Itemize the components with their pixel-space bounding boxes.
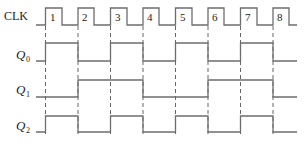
q2-waveform [36, 116, 297, 132]
timing-diagram: CLK Q 0 Q 1 Q 2 1 2 3 4 5 6 7 8 [0, 0, 306, 149]
label-q1: Q 1 [16, 82, 30, 99]
label-clk: CLK [4, 9, 28, 23]
svg-text:2: 2 [26, 126, 30, 135]
pulse-number: 2 [82, 11, 88, 23]
q0-waveform [36, 43, 297, 61]
svg-text:Q: Q [16, 47, 26, 62]
pulse-number: 6 [212, 11, 218, 23]
svg-text:1: 1 [26, 90, 30, 99]
pulse-number: 4 [147, 11, 153, 23]
label-q2: Q 2 [16, 118, 30, 135]
svg-text:0: 0 [26, 55, 30, 64]
clock-pulse-numbers: 1 2 3 4 5 6 7 8 [50, 11, 283, 23]
pulse-number: 3 [115, 11, 121, 23]
svg-text:Q: Q [16, 118, 26, 133]
label-q0: Q 0 [16, 47, 30, 64]
pulse-number: 8 [277, 11, 283, 23]
clk-waveform [36, 8, 297, 25]
q1-waveform [36, 80, 297, 97]
pulse-number: 1 [50, 11, 56, 23]
pulse-number: 7 [245, 11, 251, 23]
pulse-number: 5 [180, 11, 186, 23]
svg-text:Q: Q [16, 82, 26, 97]
